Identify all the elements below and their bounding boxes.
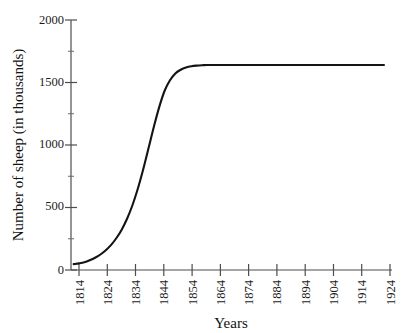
x-tick-label: 1814: [73, 279, 87, 305]
x-axis-title: Years: [214, 315, 248, 331]
sheep-population-curve: [74, 65, 384, 264]
x-tick-label: 1914: [355, 279, 369, 305]
y-tick-label: 500: [45, 199, 64, 213]
chart-figure: Number of sheep (in thousands) 2000 1500…: [0, 0, 405, 333]
x-tick-label: 1834: [129, 279, 143, 305]
y-axis-title: Number of sheep (in thousands): [10, 49, 27, 241]
x-tick-label: 1924: [384, 279, 398, 305]
y-axis-tick-labels: 2000 1500 1000 500 0: [39, 13, 64, 277]
x-tick-label: 1884: [270, 279, 284, 305]
sheep-population-line-chart: Number of sheep (in thousands) 2000 1500…: [0, 0, 405, 333]
x-tick-label: 1904: [327, 279, 341, 305]
x-tick-label: 1874: [242, 279, 256, 305]
y-tick-label: 1500: [39, 75, 64, 89]
x-tick-label: 1894: [299, 279, 313, 305]
x-tick-label: 1844: [157, 279, 171, 305]
x-tick-label: 1824: [101, 279, 115, 305]
x-tick-label: 1864: [214, 279, 228, 305]
y-tick-label: 0: [58, 263, 64, 277]
y-tick-label: 1000: [39, 137, 64, 151]
x-axis-tick-labels: 1814 1824 1834 1844 1854 1864 1874 1884 …: [73, 279, 398, 305]
y-tick-label: 2000: [39, 13, 64, 27]
x-tick-label: 1854: [186, 279, 200, 305]
